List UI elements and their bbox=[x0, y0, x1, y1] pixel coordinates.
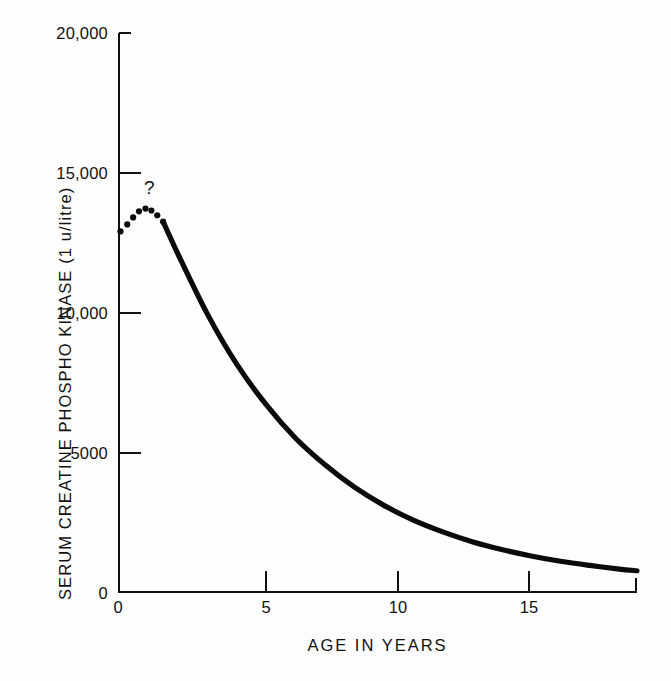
uncertainty-question-mark: ? bbox=[144, 177, 155, 199]
data-curve-solid bbox=[163, 222, 637, 571]
y-tick-marks bbox=[119, 173, 141, 453]
x-tick-marks bbox=[266, 571, 529, 592]
plot-area bbox=[0, 0, 671, 681]
data-curve-dotted bbox=[117, 205, 166, 234]
chart-figure: SERUM CREATINE PHOSPHO KINASE (1 u/litre… bbox=[0, 0, 671, 681]
